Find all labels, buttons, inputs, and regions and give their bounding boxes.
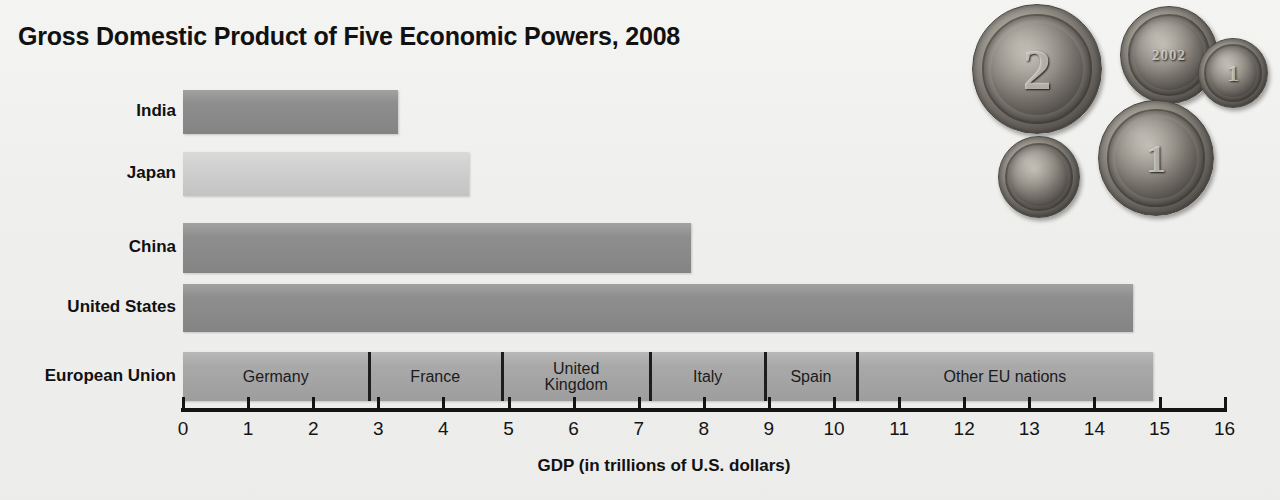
bar-european-union: GermanyFranceUnited KingdomItalySpainOth… <box>183 352 1153 401</box>
bar-chart-plot: IndiaJapanChinaUnited StatesEuropean Uni… <box>0 0 1280 500</box>
x-tick-label-8: 8 <box>687 418 721 440</box>
bar-japan <box>183 152 469 196</box>
x-axis-title-text: GDP (in trillions of U.S. dollars) <box>538 456 791 476</box>
x-tick-label-11: 11 <box>882 418 916 440</box>
segment-label-4: Spain <box>765 368 857 384</box>
x-tick-14 <box>1093 397 1096 409</box>
x-tick-label-3: 3 <box>361 418 395 440</box>
x-tick-15 <box>1159 397 1162 409</box>
x-tick-label-10: 10 <box>817 418 851 440</box>
bar-china <box>183 223 691 273</box>
x-tick-label-2: 2 <box>296 418 330 440</box>
x-tick-label-16: 16 <box>1208 418 1242 440</box>
segment-divider-1 <box>368 352 371 401</box>
bar-fill <box>183 223 691 273</box>
x-tick-1 <box>247 397 250 409</box>
category-label-india: India <box>136 101 176 121</box>
x-tick-9 <box>768 397 771 409</box>
x-tick-label-7: 7 <box>622 418 656 440</box>
segment-divider-4 <box>764 352 767 401</box>
x-tick-11 <box>898 397 901 409</box>
x-tick-label-9: 9 <box>752 418 786 440</box>
category-label-china: China <box>129 237 176 257</box>
segment-label-3: Italy <box>650 368 765 384</box>
x-tick-label-14: 14 <box>1077 418 1111 440</box>
x-tick-7 <box>638 397 641 409</box>
category-label-european-union: European Union <box>45 366 176 386</box>
segment-label-5: Other EU nations <box>857 368 1153 384</box>
x-tick-3 <box>377 397 380 409</box>
x-tick-label-0: 0 <box>166 418 200 440</box>
x-tick-13 <box>1028 397 1031 409</box>
x-tick-label-6: 6 <box>557 418 591 440</box>
x-tick-8 <box>703 397 706 409</box>
bar-fill <box>183 152 469 196</box>
x-tick-label-12: 12 <box>947 418 981 440</box>
bar-fill <box>183 90 398 134</box>
x-tick-label-13: 13 <box>1012 418 1046 440</box>
x-tick-16 <box>1224 397 1227 409</box>
x-axis-title: GDP (in trillions of U.S. dollars) <box>0 456 1280 476</box>
segment-label-1: France <box>369 368 502 384</box>
bar-fill <box>183 284 1133 332</box>
x-tick-label-1: 1 <box>231 418 265 440</box>
x-tick-6 <box>573 397 576 409</box>
x-tick-label-5: 5 <box>492 418 526 440</box>
bar-united-states <box>183 284 1133 332</box>
segment-divider-5 <box>856 352 859 401</box>
x-tick-2 <box>312 397 315 409</box>
segment-divider-3 <box>649 352 652 401</box>
bar-india <box>183 90 398 134</box>
x-tick-label-15: 15 <box>1143 418 1177 440</box>
x-tick-0 <box>182 397 185 409</box>
x-tick-10 <box>833 397 836 409</box>
x-tick-12 <box>963 397 966 409</box>
segment-label-0: Germany <box>183 368 369 384</box>
segment-divider-2 <box>501 352 504 401</box>
category-label-japan: Japan <box>127 163 176 183</box>
category-label-united-states: United States <box>67 297 176 317</box>
x-tick-5 <box>508 397 511 409</box>
x-tick-label-4: 4 <box>426 418 460 440</box>
segment-label-2: United Kingdom <box>502 360 650 393</box>
chart-page: Gross Domestic Product of Five Economic … <box>0 0 1280 500</box>
x-tick-4 <box>442 397 445 409</box>
